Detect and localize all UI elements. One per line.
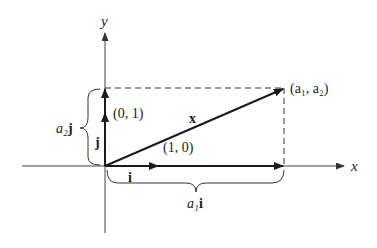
x-vector xyxy=(105,89,283,166)
j-label: j xyxy=(94,135,100,150)
y-axis-label: y xyxy=(99,13,108,29)
vector-diagram: x y (a₁, a₂) x (1, 0) (0, 1) i j a₂j a₁i xyxy=(0,0,377,248)
unit-y-label: (0, 1) xyxy=(113,106,144,122)
a1i-label: a₁i xyxy=(187,196,203,211)
endpoint-label: (a₁, a₂) xyxy=(290,81,329,97)
x-axis-label: x xyxy=(350,158,358,174)
vertical-brace xyxy=(80,89,100,165)
unit-x-label: (1, 0) xyxy=(163,140,194,156)
x-vector-label: x xyxy=(189,111,196,126)
horizontal-brace xyxy=(107,170,284,192)
a2j-label: a₂j xyxy=(56,121,73,136)
